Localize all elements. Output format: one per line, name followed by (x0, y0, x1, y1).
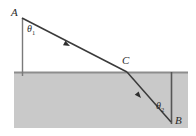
theta1-subscript: 1 (32, 29, 35, 36)
angle-label-theta2: θ2 (156, 101, 164, 114)
point-label-a: A (11, 7, 18, 18)
point-label-b: B (175, 115, 182, 126)
lower-medium-shaded-region (14, 72, 188, 128)
angle-label-theta1: θ1 (27, 24, 35, 37)
diagram-canvas (0, 0, 196, 136)
theta2-subscript: 2 (161, 106, 164, 113)
refraction-diagram: A θ1 C θ2 B (0, 0, 196, 136)
point-label-c: C (122, 55, 129, 66)
incident-ray (22, 18, 127, 72)
